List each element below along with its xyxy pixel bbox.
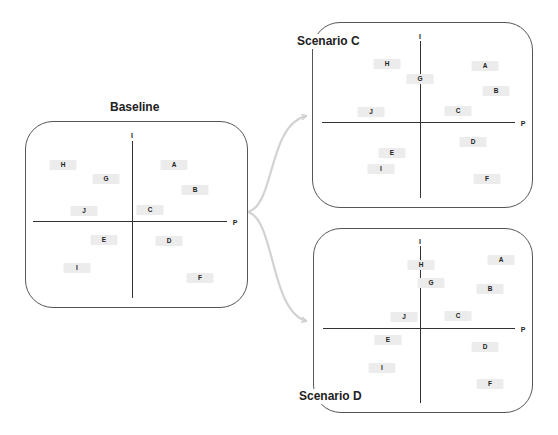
scenario-d-item-h: H [408, 260, 435, 270]
faded-caption [26, 420, 346, 426]
scenario-c-horizontal-axis [322, 122, 515, 123]
baseline-item-a: A [161, 160, 188, 170]
scenario-c-vertical-axis [420, 41, 421, 198]
baseline-item-c: C [137, 205, 164, 215]
scenario-c-item-b: B [483, 86, 510, 96]
arrow-to-scenario-d [248, 212, 306, 321]
baseline-horizontal-axis [33, 221, 227, 222]
scenario-c-item-i: I [368, 164, 395, 174]
scenario-d-item-b: B [477, 284, 504, 294]
scenario-d-item-g: G [418, 278, 445, 288]
baseline-item-f: F [187, 273, 214, 283]
arrow-to-scenario-c [248, 116, 306, 212]
scenario-d-item-e: E [375, 335, 402, 345]
scenario-d-axis-label-p: P [521, 326, 526, 333]
scenario-c-item-e: E [379, 148, 406, 158]
scenario-d-item-c: C [445, 311, 472, 321]
scenario-d-title: Scenario D [297, 389, 364, 404]
scenario-c-item-f: F [474, 174, 501, 184]
baseline-axis-label-p: P [233, 219, 238, 226]
scenario-c-item-h: H [374, 59, 401, 69]
scenario-c-item-c: C [445, 106, 472, 116]
baseline-axis-label-i: I [131, 132, 133, 139]
scenario-c-axis-label-p: P [521, 120, 526, 127]
scenario-d-item-i: I [369, 363, 396, 373]
scenario-d-horizontal-axis [323, 328, 515, 329]
baseline-title: Baseline [108, 100, 161, 115]
baseline-item-i: I [64, 263, 91, 273]
scenario-c-axis-label-i: I [419, 33, 421, 40]
scenario-d-item-f: F [477, 379, 504, 389]
baseline-item-h: H [50, 160, 77, 170]
baseline-item-j: J [71, 206, 98, 216]
baseline-item-g: G [93, 174, 120, 184]
scenario-d-item-d: D [472, 342, 499, 352]
scenario-d-item-a: A [488, 255, 515, 265]
scenario-c-item-d: D [460, 137, 487, 147]
scenario-c-item-g: G [407, 74, 434, 84]
scenario-d-axis-label-i: I [419, 238, 421, 245]
scenario-c-item-a: A [472, 61, 499, 71]
baseline-vertical-axis [132, 141, 133, 298]
baseline-item-e: E [91, 235, 118, 245]
scenario-c-item-j: J [358, 107, 385, 117]
scenario-c-title: Scenario C [295, 34, 362, 49]
scenario-d-item-j: J [391, 312, 418, 322]
baseline-item-d: D [156, 236, 183, 246]
baseline-item-b: B [182, 185, 209, 195]
